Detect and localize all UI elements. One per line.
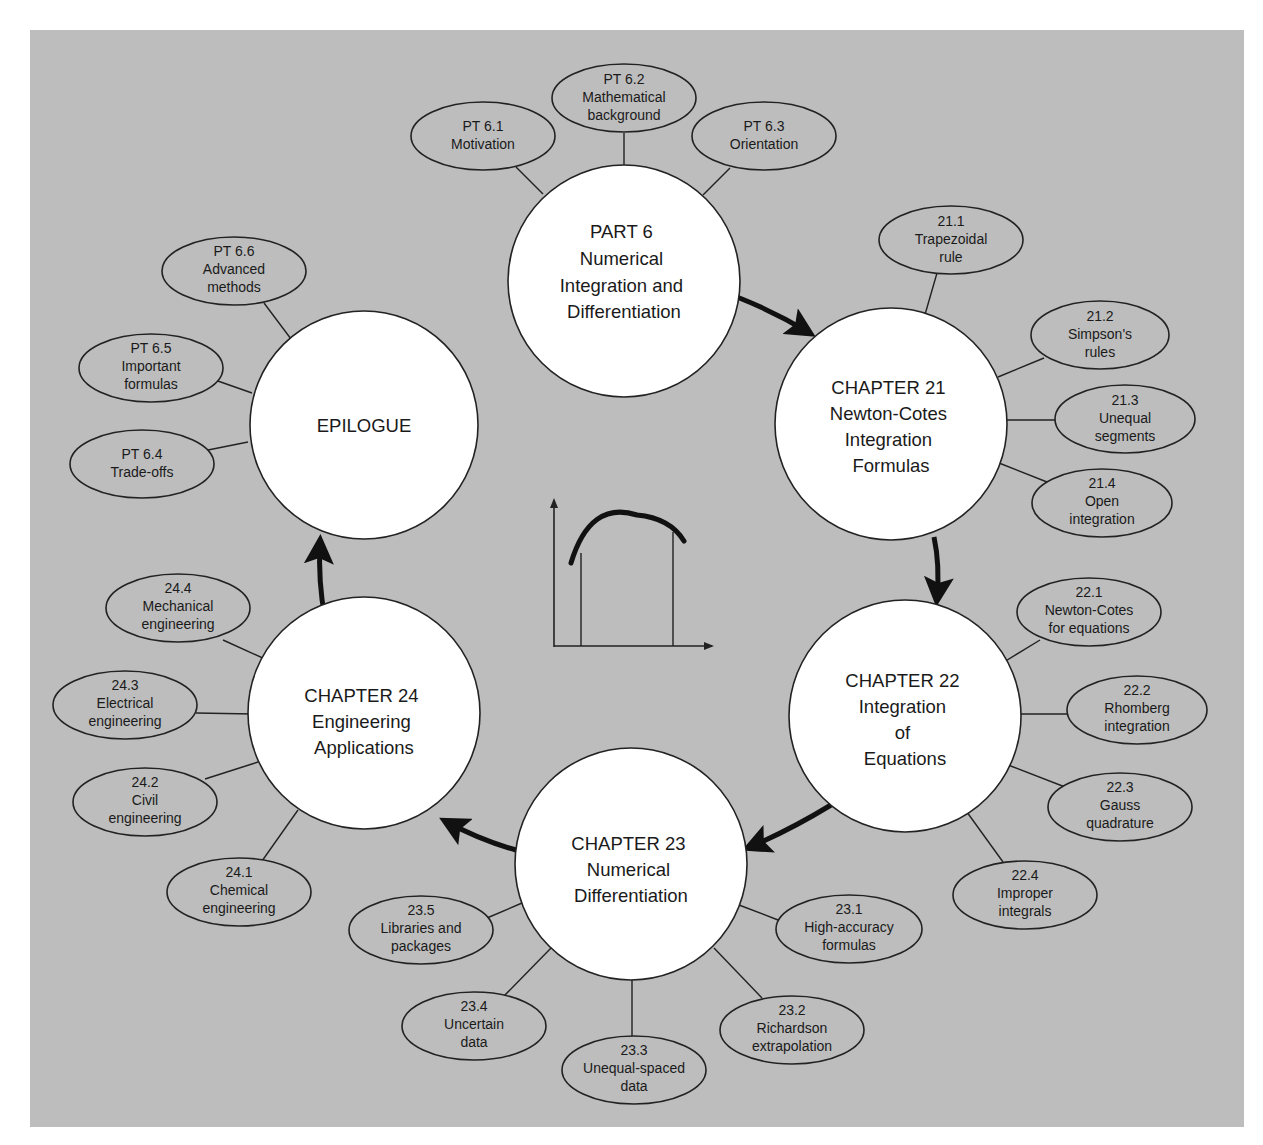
bubble-21-1[interactable]: 21.1Trapezoidalrule [879, 206, 1023, 274]
node-ch23[interactable]: CHAPTER 23 Numerical Differentiation [515, 748, 747, 980]
bubble-pt6-1[interactable]: PT 6.1Motivation [411, 102, 555, 170]
bubble-pt6-6[interactable]: PT 6.6Advancedmethods [162, 237, 306, 305]
node-ch24-label: CHAPTER 24 Engineering Applications [304, 685, 423, 758]
bubble-23-4[interactable]: 23.4Uncertaindata [402, 992, 546, 1060]
bubble-22-4[interactable]: 22.4Improperintegrals [953, 861, 1097, 929]
bubble-22-3[interactable]: 22.3Gaussquadrature [1048, 773, 1192, 841]
bubble-23-5[interactable]: 23.5Libraries andpackages [349, 896, 493, 964]
bubble-pt6-3[interactable]: PT 6.3Orientation [692, 102, 836, 170]
node-epilogue[interactable]: EPILOGUE [250, 311, 478, 539]
bubble-21-3[interactable]: 21.3Unequalsegments [1055, 385, 1195, 453]
arrow-ch22-to-ch23 [750, 805, 831, 847]
bubble-24-4[interactable]: 24.4Mechanicalengineering [106, 574, 250, 642]
main-nodes: PART 6 Numerical Integration and Differe… [248, 165, 1021, 980]
bubble-22-1[interactable]: 22.1Newton-Cotesfor equations [1017, 578, 1161, 646]
bubble-24-1[interactable]: 24.1Chemicalengineering [167, 858, 311, 926]
bubble-23-1[interactable]: 23.1High-accuracyformulas [776, 895, 922, 963]
node-ch24[interactable]: CHAPTER 24 Engineering Applications [248, 597, 480, 829]
node-ch21[interactable]: CHAPTER 21 Newton-Cotes Integration Form… [775, 308, 1007, 540]
arrow-part6-to-ch21 [737, 297, 808, 332]
bubble-pt6-4[interactable]: PT 6.4Trade-offs [70, 430, 214, 498]
integral-area-under-curve-icon [554, 500, 712, 647]
bubble-22-2[interactable]: 22.2Rhombergintegration [1067, 676, 1207, 744]
bubble-21-4[interactable]: 21.4Openintegration [1032, 469, 1172, 537]
node-epilogue-label: EPILOGUE [317, 415, 412, 436]
diagram-canvas: PART 6 Numerical Integration and Differe… [0, 0, 1263, 1145]
arrow-ch23-to-ch24 [447, 822, 516, 850]
bubble-24-3[interactable]: 24.3Electricalengineering [53, 671, 197, 739]
bubble-21-2[interactable]: 21.2Simpson'srules [1031, 301, 1169, 369]
bubble-pt6-2[interactable]: PT 6.2Mathematicalbackground [552, 64, 696, 132]
node-ch22[interactable]: CHAPTER 22 Integration of Equations [789, 600, 1021, 832]
bubble-pt6-5[interactable]: PT 6.5Importantformulas [79, 334, 223, 402]
part6-roadmap-diagram: PART 6 Numerical Integration and Differe… [0, 0, 1263, 1145]
bubble-24-2[interactable]: 24.2Civilengineering [73, 768, 217, 836]
arrow-ch21-to-ch22 [934, 537, 938, 598]
bubble-23-3[interactable]: 23.3Unequal-spaceddata [562, 1036, 706, 1104]
node-part6[interactable]: PART 6 Numerical Integration and Differe… [508, 165, 740, 397]
node-ch23-label: CHAPTER 23 Numerical Differentiation [571, 833, 690, 906]
bubble-23-2[interactable]: 23.2Richardsonextrapolation [720, 996, 864, 1064]
